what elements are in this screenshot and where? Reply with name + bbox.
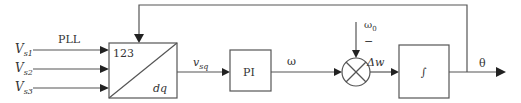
input-label-vs3: Vs3 <box>15 80 33 96</box>
feedback-arrowhead <box>134 34 144 43</box>
output-arrow <box>496 67 506 77</box>
transform-bottom-label: dq <box>153 82 167 95</box>
pll-block-diagram: PLL Vs1 Vs2 Vs3 123 dq vsq PI ω ω0 − Δw … <box>0 0 521 103</box>
output-label: θ <box>479 57 486 70</box>
delta-w-label: Δw <box>366 56 385 69</box>
vsq-arrow <box>222 68 230 76</box>
input-arrow-vs2 <box>100 65 109 73</box>
input-label-vs1: Vs1 <box>15 42 33 58</box>
omega-arrow <box>334 68 342 76</box>
vsq-label: vsq <box>193 56 208 71</box>
input-arrow-vs1 <box>100 46 109 54</box>
input-arrow-vs3 <box>100 84 109 92</box>
pll-title: PLL <box>58 33 81 46</box>
reference-label: ω0 <box>364 19 377 33</box>
delta-w-arrow <box>391 68 399 76</box>
input-label-vs2: Vs2 <box>15 61 33 77</box>
reference-arrow <box>352 50 360 58</box>
transform-top-label: 123 <box>113 47 134 60</box>
reference-sign: − <box>364 35 373 48</box>
pi-label: PI <box>243 66 255 79</box>
omega-label: ω <box>287 55 296 68</box>
integrator-label: ∫ <box>421 66 427 79</box>
